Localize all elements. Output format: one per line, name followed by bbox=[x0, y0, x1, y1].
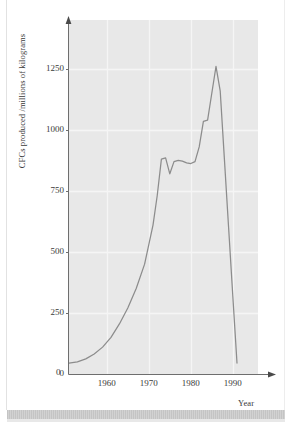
page-footer-band bbox=[7, 410, 285, 419]
y-tick-label-750: 750 bbox=[28, 185, 64, 195]
x-tick-label-1990: 1990 bbox=[217, 378, 249, 388]
plot-background bbox=[69, 20, 258, 374]
y-axis-title: CFCs produced /millions of kilograms bbox=[17, 31, 27, 171]
x-tick-label-1980: 1980 bbox=[175, 378, 207, 388]
y-tick-label-1250: 1250 bbox=[28, 63, 64, 73]
figure-root: 0250500750100012500 1960197019801990 CFC… bbox=[0, 0, 291, 422]
y-tick-label-250: 250 bbox=[28, 307, 64, 317]
y-tick-label-0: 0 bbox=[56, 367, 61, 377]
x-tick-label-1960: 1960 bbox=[91, 378, 123, 388]
x-axis-title: Year bbox=[238, 398, 254, 408]
x-tick-label-1970: 1970 bbox=[133, 378, 165, 388]
y-tick-label-1000: 1000 bbox=[28, 124, 64, 134]
x-axis-arrowhead bbox=[268, 372, 276, 378]
y-tick-label-500: 500 bbox=[28, 246, 64, 256]
